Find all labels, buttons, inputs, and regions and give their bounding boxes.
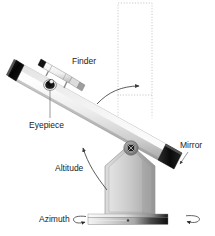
telescope-diagram: Finder Eyepiece Mirror Altitude Azimuth	[0, 0, 215, 236]
label-azimuth: Azimuth	[39, 214, 70, 224]
altitude-rotation-arrow	[83, 148, 107, 190]
azimuth-rotation-arrow-right	[186, 216, 199, 223]
label-altitude: Altitude	[55, 163, 84, 173]
azimuth-base	[88, 214, 168, 224]
vertical-reference-guide	[118, 3, 152, 126]
label-eyepiece: Eyepiece	[29, 120, 64, 130]
label-finder: Finder	[72, 56, 96, 66]
label-mirror: Mirror	[180, 140, 202, 150]
optical-tube	[16, 65, 166, 160]
eyepiece	[44, 79, 57, 90]
telescope-illustration: Finder Eyepiece Mirror Altitude Azimuth	[0, 0, 215, 236]
altitude-pivot-hub	[124, 141, 138, 155]
azimuth-rotation-arrow-left	[74, 216, 87, 223]
